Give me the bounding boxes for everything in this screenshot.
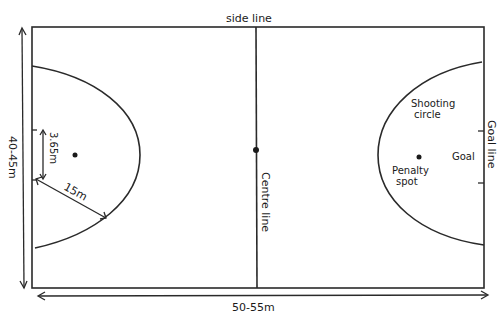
width-dimension-arrow	[22, 29, 24, 288]
circle-radius-label: 15m	[62, 180, 90, 203]
left-penalty-spot	[73, 153, 78, 158]
side-line-label: side line	[226, 12, 272, 25]
length-dimension-arrow	[39, 295, 487, 296]
goal-label: Goal	[452, 151, 475, 162]
penalty-spot-label-line2: spot	[396, 176, 418, 187]
centre-line	[256, 27, 257, 288]
netball-court-diagram: 3.65m 15m Shooting circle Penalty spot G…	[0, 0, 502, 322]
centre-line-label: Centre line	[259, 172, 272, 232]
court-boundary	[32, 27, 484, 288]
length-dimension-label: 50-55m	[232, 301, 275, 314]
shooting-circle-label: Shooting	[411, 98, 455, 109]
right-penalty-spot	[417, 155, 422, 160]
goal-line-label: Goal line	[485, 120, 498, 169]
centre-spot	[253, 147, 259, 153]
penalty-spot-label: Penalty	[392, 165, 429, 176]
goal-offset-label: 3.65m	[48, 132, 59, 164]
width-dimension-label: 40-45m	[6, 136, 19, 179]
shooting-circle-label-line2: circle	[414, 109, 441, 120]
